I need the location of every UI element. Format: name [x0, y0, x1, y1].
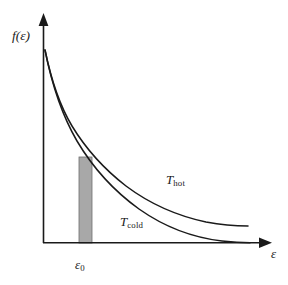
x-axis-label-text: ε: [271, 246, 276, 261]
y-axis-label: f(ε): [12, 29, 30, 43]
curve-t-cold: [45, 50, 250, 243]
figure-canvas: [0, 0, 288, 285]
curve-label-t-hot: Thot: [166, 173, 185, 186]
epsilon-zero-subscript: 0: [80, 263, 85, 273]
t-hot-subscript: hot: [173, 178, 185, 188]
curve-label-t-cold: Tcold: [120, 215, 143, 228]
y-axis-label-text: f(ε): [12, 28, 30, 43]
epsilon-zero-label: ε0: [75, 258, 85, 271]
y-axis-arrowhead: [39, 13, 49, 26]
energy-distribution-figure: f(ε) ε ε0 Thot Tcold: [0, 0, 288, 285]
x-axis-label: ε: [271, 247, 276, 260]
shaded-energy-band: [79, 157, 92, 243]
t-cold-subscript: cold: [127, 220, 143, 230]
